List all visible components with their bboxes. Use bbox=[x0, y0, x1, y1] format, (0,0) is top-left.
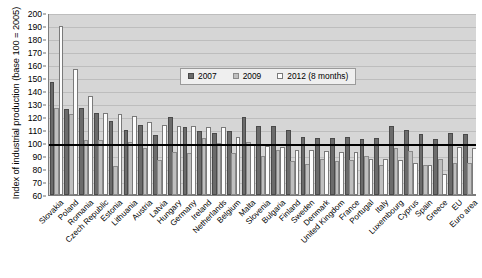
y-axis-tick-mark bbox=[43, 183, 46, 184]
bar bbox=[457, 147, 462, 195]
bar-group bbox=[344, 14, 359, 195]
bar-group bbox=[359, 14, 374, 195]
industrial-production-bar-chart: Index of industrial production (base 100… bbox=[0, 0, 482, 278]
y-axis-tick: 160 bbox=[28, 61, 42, 71]
legend-swatch-icon bbox=[233, 73, 239, 79]
x-axis-category-labels: SlovakiaPolandRomaniaCzech RepublicEston… bbox=[48, 198, 476, 278]
bar-group bbox=[447, 14, 462, 195]
bar-group bbox=[433, 14, 448, 195]
y-axis-tick-mark bbox=[43, 157, 46, 158]
legend-label: 2007 bbox=[198, 71, 217, 81]
legend-item[interactable]: 2007 bbox=[188, 71, 217, 81]
bar bbox=[191, 126, 196, 195]
bar bbox=[383, 159, 388, 195]
bar bbox=[206, 127, 211, 195]
legend-swatch-icon bbox=[277, 73, 283, 79]
bar-group bbox=[241, 14, 256, 195]
bar-group bbox=[315, 14, 330, 195]
reference-line-100 bbox=[49, 144, 476, 146]
bar bbox=[147, 122, 152, 195]
y-axis-tick-mark bbox=[43, 14, 46, 15]
y-axis-tick-mark bbox=[43, 92, 46, 93]
bar bbox=[88, 96, 93, 195]
y-axis-tick-mark bbox=[43, 66, 46, 67]
y-axis-tick: 60 bbox=[32, 191, 42, 201]
bar bbox=[398, 160, 403, 195]
y-axis-tick: 110 bbox=[28, 126, 42, 136]
y-axis-tick: 80 bbox=[32, 165, 42, 175]
y-axis-tick-mark bbox=[43, 79, 46, 80]
plot-area bbox=[48, 14, 476, 196]
y-axis-tick: 180 bbox=[28, 35, 42, 45]
bar bbox=[265, 146, 270, 195]
bar-group bbox=[138, 14, 153, 195]
bar-group bbox=[418, 14, 433, 195]
bar bbox=[73, 69, 78, 195]
bar-group bbox=[211, 14, 226, 195]
y-axis-tick: 100 bbox=[28, 139, 42, 149]
bar bbox=[339, 152, 344, 195]
bar-group bbox=[182, 14, 197, 195]
legend-label: 2009 bbox=[243, 71, 262, 81]
y-axis-tick: 130 bbox=[28, 100, 42, 110]
y-axis-tick-mark bbox=[43, 196, 46, 197]
bar bbox=[59, 26, 64, 195]
y-axis-tick: 170 bbox=[28, 48, 42, 58]
bar bbox=[295, 150, 300, 196]
bar bbox=[132, 116, 137, 195]
bar bbox=[472, 148, 476, 195]
y-axis-tick: 70 bbox=[32, 178, 42, 188]
y-axis-tick-mark bbox=[43, 53, 46, 54]
chart-legend: 200720092012 (8 months) bbox=[180, 68, 356, 85]
bar bbox=[413, 163, 418, 196]
bar-group bbox=[388, 14, 403, 195]
legend-label: 2012 (8 months) bbox=[287, 71, 348, 81]
bar bbox=[162, 125, 167, 195]
bar-group bbox=[403, 14, 418, 195]
legend-item[interactable]: 2012 (8 months) bbox=[277, 71, 348, 81]
bar-group bbox=[123, 14, 138, 195]
bar-group bbox=[79, 14, 94, 195]
bar-group bbox=[108, 14, 123, 195]
bar bbox=[221, 127, 226, 195]
bar-group bbox=[256, 14, 271, 195]
legend-item[interactable]: 2009 bbox=[233, 71, 262, 81]
bar-group bbox=[167, 14, 182, 195]
y-axis-tick: 120 bbox=[28, 113, 42, 123]
y-axis-tick: 90 bbox=[32, 152, 42, 162]
bar-group bbox=[64, 14, 79, 195]
bar bbox=[354, 152, 359, 195]
y-axis-tick-mark bbox=[43, 131, 46, 132]
bar-group bbox=[197, 14, 212, 195]
bar-group bbox=[270, 14, 285, 195]
bar bbox=[309, 150, 314, 196]
bar-group bbox=[226, 14, 241, 195]
legend-swatch-icon bbox=[188, 73, 194, 79]
y-axis-tick-mark bbox=[43, 40, 46, 41]
bar-group bbox=[374, 14, 389, 195]
bar bbox=[324, 151, 329, 195]
y-axis-tick: 190 bbox=[28, 22, 42, 32]
bar-group bbox=[93, 14, 108, 195]
bar-group bbox=[462, 14, 476, 195]
y-axis-tick-mark bbox=[43, 27, 46, 28]
bar bbox=[250, 144, 255, 195]
y-axis-tick-mark bbox=[43, 118, 46, 119]
bar bbox=[369, 159, 374, 195]
bar-group bbox=[285, 14, 300, 195]
bar bbox=[280, 147, 285, 195]
bar bbox=[103, 113, 108, 195]
y-axis-tick: 140 bbox=[28, 87, 42, 97]
cropped-title-strip bbox=[0, 0, 482, 6]
bar bbox=[177, 126, 182, 195]
bar bbox=[428, 165, 433, 195]
bar-group bbox=[49, 14, 64, 195]
bar bbox=[442, 174, 447, 195]
y-axis-tick-mark bbox=[43, 170, 46, 171]
y-axis-tick: 150 bbox=[28, 74, 42, 84]
bar-group bbox=[300, 14, 315, 195]
bar-series-container bbox=[49, 14, 476, 195]
y-axis-tick-mark bbox=[43, 144, 46, 145]
y-axis-tick: 200 bbox=[28, 9, 42, 19]
y-axis-tick-labels: 6070809010011012013014015016017018019020… bbox=[0, 0, 48, 200]
